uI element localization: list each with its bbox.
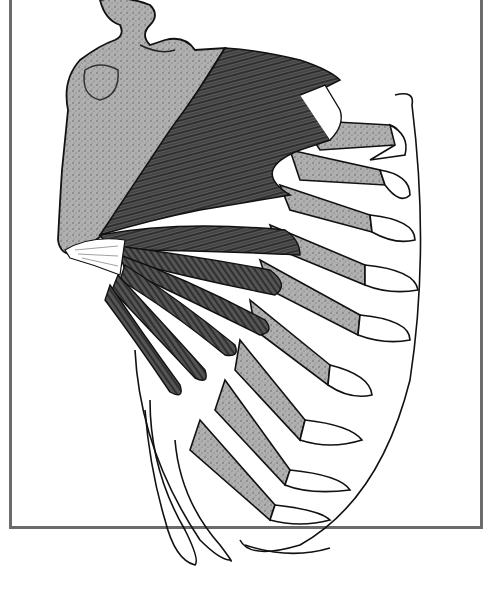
- muscle-slips: [100, 226, 300, 395]
- anatomy-illustration: [0, 0, 490, 592]
